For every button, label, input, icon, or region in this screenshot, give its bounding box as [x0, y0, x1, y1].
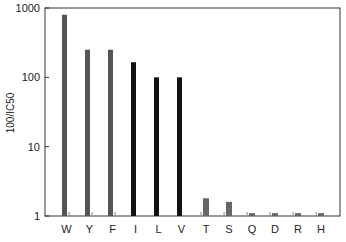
minor-bar-Y	[92, 212, 93, 216]
bar-Q	[249, 213, 255, 216]
minor-bar-F	[115, 212, 116, 216]
x-axis-labels: WYFILVTSQDRH	[61, 223, 325, 235]
bar-Y	[85, 50, 90, 216]
y-axis-title: 100/IC50	[5, 92, 16, 133]
bar-D	[272, 213, 278, 216]
minor-bar-W	[69, 212, 70, 216]
bars	[62, 15, 324, 216]
bar-R	[295, 213, 301, 216]
y-axis-ticks: 1101001000	[16, 2, 49, 222]
x-label-T: T	[203, 223, 210, 235]
x-label-L: L	[155, 223, 161, 235]
x-label-D: D	[271, 223, 279, 235]
bar-chart: 1101001000 WYFILVTSQDRH 100/IC50	[0, 0, 346, 242]
x-label-H: H	[317, 223, 325, 235]
x-label-R: R	[294, 223, 302, 235]
bar-F	[108, 50, 113, 216]
y-tick-label: 100	[22, 71, 40, 83]
x-label-S: S	[225, 223, 232, 235]
x-label-F: F	[109, 223, 116, 235]
x-label-Q: Q	[248, 223, 257, 235]
bar-W	[62, 15, 67, 216]
minor-bar-R	[293, 212, 294, 216]
y-tick-label: 1000	[16, 2, 40, 14]
x-label-V: V	[178, 223, 186, 235]
minor-bar-H	[316, 212, 317, 216]
y-tick-label: 10	[28, 141, 40, 153]
x-label-I: I	[134, 223, 137, 235]
bar-T	[203, 198, 209, 216]
bar-I	[131, 62, 136, 216]
x-label-W: W	[61, 223, 72, 235]
minor-bar-S	[224, 212, 225, 216]
minor-bar-D	[270, 212, 271, 216]
bar-S	[226, 202, 232, 216]
x-label-Y: Y	[86, 223, 94, 235]
bar-L	[154, 77, 159, 216]
y-tick-label: 1	[34, 210, 40, 222]
bar-H	[318, 213, 324, 216]
minor-bar-Q	[247, 212, 248, 216]
minor-bar-T	[201, 212, 202, 216]
bar-V	[177, 77, 182, 216]
